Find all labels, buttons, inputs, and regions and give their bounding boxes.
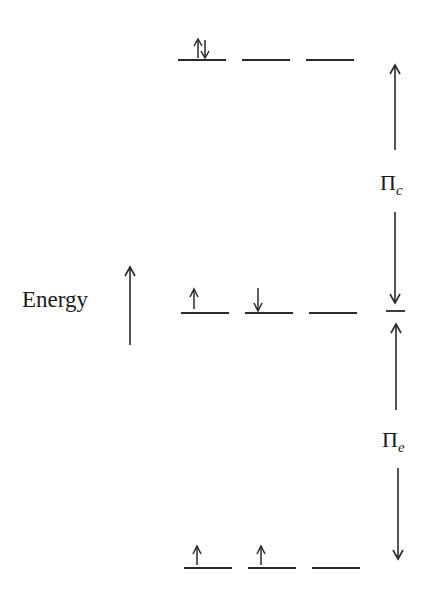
electron-up-arrow-icon [194, 39, 202, 58]
arrow-up-icon [390, 65, 400, 150]
arrow-up-icon [391, 324, 401, 410]
electron-up-arrow-icon [257, 546, 265, 565]
pi-c-subscript: c [396, 182, 403, 198]
lower-level [184, 546, 360, 568]
electron-up-arrow-icon [190, 289, 198, 309]
arrow-down-icon [393, 468, 403, 559]
arrow-down-icon [390, 212, 400, 303]
pi-e-symbol: Π [382, 427, 398, 452]
electron-down-arrow-icon [254, 288, 262, 311]
electron-up-arrow-icon [193, 546, 201, 565]
upper-level [178, 39, 354, 60]
pi-e-label: Πe [382, 429, 405, 455]
diagram-lines [0, 0, 436, 600]
middle-level [181, 288, 405, 313]
energy-axis-arrow-icon [125, 267, 135, 345]
pi-c-symbol: Π [380, 170, 396, 195]
electron-down-arrow-icon [201, 40, 209, 58]
pi-c-label: Πc [380, 172, 403, 198]
pi-e-subscript: e [398, 439, 405, 455]
